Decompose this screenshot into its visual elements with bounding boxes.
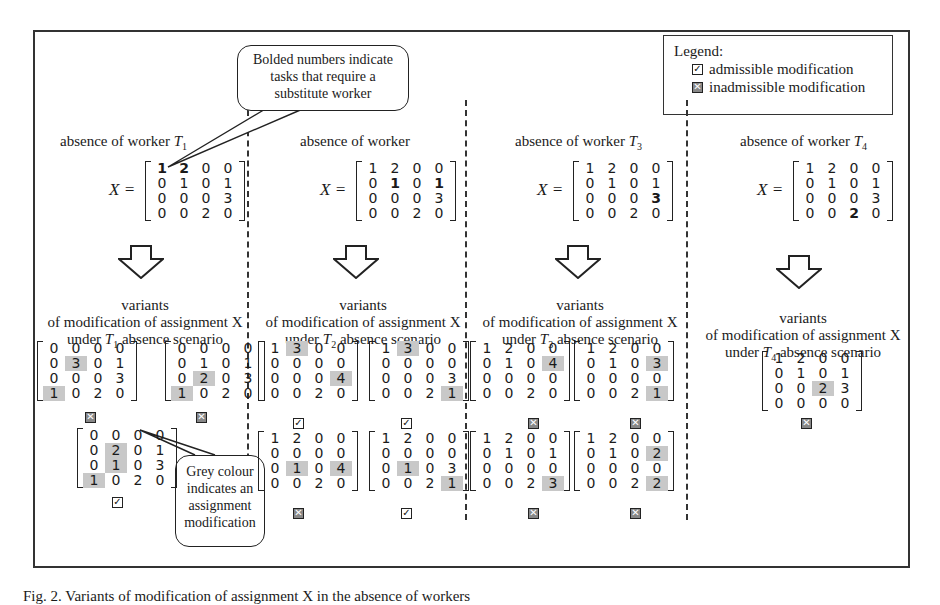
matrix-cell: 0: [419, 371, 441, 386]
matrix-cell: 3: [428, 191, 450, 206]
bracket-right: [463, 341, 469, 401]
variant-matrix: 1300000000030021: [369, 341, 469, 401]
matrix-cell: 1: [264, 431, 286, 446]
matrix-cell: 1: [428, 176, 450, 191]
admissible-check-icon: ✓: [401, 508, 412, 519]
matrix-cell: 1: [645, 176, 667, 191]
variant-matrix: 0000010102031020: [165, 341, 265, 401]
column-header-worker-2: absence of worker: [300, 133, 410, 150]
matrix-cell: 3: [237, 371, 259, 386]
matrix-cell: 0: [237, 341, 259, 356]
matrix-cell: 0: [542, 341, 564, 356]
matrix-cell: 0: [441, 446, 463, 461]
bracket-left: [793, 161, 799, 221]
matrix-cell: 0: [645, 161, 667, 176]
matrix-cell: 0: [498, 386, 520, 401]
matrix-label: X =: [109, 180, 135, 200]
matrix-cell: 0: [843, 191, 865, 206]
matrix-cell: 1: [601, 176, 623, 191]
inadmissible-cross-icon: ✕: [85, 412, 96, 423]
matrix-cell: 0: [601, 206, 623, 221]
matrix-cell: 1: [384, 176, 406, 191]
matrix-cell: 0: [308, 446, 330, 461]
matrix-cell: 2: [498, 431, 520, 446]
matrix-cell: 0: [330, 446, 352, 461]
matrix-cell: 0: [127, 428, 149, 443]
matrix-cell: 0: [237, 386, 259, 401]
matrix-cell: 0: [149, 428, 171, 443]
matrix-cell: 0: [799, 191, 821, 206]
matrix-cell: 0: [171, 341, 193, 356]
variant-matrix: 1300000000040020: [258, 341, 358, 401]
matrix-cell: 0: [428, 206, 450, 221]
bracket-left: [165, 341, 171, 401]
bracket-right: [450, 161, 456, 221]
matrix-cell: 0: [215, 341, 237, 356]
matrix-cell: 1: [821, 176, 843, 191]
matrix-cell: 0: [812, 366, 834, 381]
matrix-cell: 0: [264, 386, 286, 401]
legend-title: Legend:: [674, 42, 882, 60]
matrix-cell: 0: [602, 476, 624, 491]
matrix-cell: 0: [645, 206, 667, 221]
matrix-cell: 2: [406, 206, 428, 221]
matrix-cell: 0: [330, 386, 352, 401]
figure-caption: Fig. 2. Variants of modification of assi…: [23, 588, 470, 605]
matrix-cell: 0: [171, 371, 193, 386]
matrix-cell: 3: [646, 356, 668, 371]
matrix-cell: 0: [65, 371, 87, 386]
matrix-cell: 0: [65, 341, 87, 356]
variant-matrix: 1200010200000022: [574, 431, 674, 491]
matrix-cell: 0: [476, 356, 498, 371]
matrix-cell: 1: [542, 446, 564, 461]
matrix-cell: 2: [419, 386, 441, 401]
matrix-cell: 0: [43, 371, 65, 386]
matrix-cell: 2: [624, 386, 646, 401]
matrix-cell: 0: [865, 161, 887, 176]
matrix-cell: 0: [441, 431, 463, 446]
matrix-cell: 1: [149, 443, 171, 458]
matrix-cell: 0: [308, 371, 330, 386]
matrix-cell: 0: [149, 473, 171, 488]
down-arrow-icon: [776, 255, 822, 289]
bracket-right: [564, 431, 570, 491]
matrix-cell: 1: [217, 176, 239, 191]
matrix-cell: 1: [580, 341, 602, 356]
bracket-left: [369, 341, 375, 401]
matrix-cell: 0: [768, 381, 790, 396]
matrix-cell: 2: [821, 161, 843, 176]
matrix-cell: 1: [397, 461, 419, 476]
matrix-cell: 0: [580, 371, 602, 386]
matrix-cell: 2: [843, 206, 865, 221]
matrix-cell: 1: [579, 161, 601, 176]
matrix-cell: 0: [308, 431, 330, 446]
matrix-cell: 2: [195, 206, 217, 221]
matrix-label: X =: [320, 180, 346, 200]
matrix-cell: 0: [476, 461, 498, 476]
variant-matrix: 1200010400000020: [470, 341, 570, 401]
matrix-cell: 1: [476, 341, 498, 356]
matrix-cell: 1: [441, 476, 463, 491]
matrix-cell: 1: [865, 176, 887, 191]
matrix-cell: 0: [362, 191, 384, 206]
matrix-cell: 0: [419, 446, 441, 461]
matrix-cell: 0: [520, 461, 542, 476]
callout-bolded-numbers: Bolded numbers indicate tasks that requi…: [237, 45, 409, 111]
column-header-worker-4: absence of worker T4: [740, 133, 867, 152]
bracket-right: [668, 341, 674, 401]
matrix-cell: 0: [215, 371, 237, 386]
matrix-cell: 0: [476, 386, 498, 401]
matrix-cell: 3: [441, 461, 463, 476]
matrix-cell: 3: [645, 191, 667, 206]
admissible-check-icon: ✓: [293, 418, 304, 429]
matrix-cell: 4: [330, 461, 352, 476]
matrix-cell: 0: [441, 341, 463, 356]
matrix-cell: 2: [173, 161, 195, 176]
bracket-left: [356, 161, 362, 221]
matrix-cell: 1: [83, 473, 105, 488]
matrix-cell: 0: [865, 206, 887, 221]
matrix-cell: 0: [580, 446, 602, 461]
matrix-cell: 0: [151, 191, 173, 206]
matrix-cell: 0: [43, 341, 65, 356]
down-arrow-icon: [333, 245, 379, 279]
